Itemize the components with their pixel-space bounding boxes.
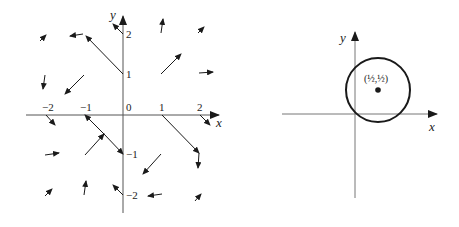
- y-axis-label: y: [338, 30, 346, 45]
- y-tick-label: −2: [126, 189, 138, 201]
- x-tick-label: −1: [80, 101, 92, 113]
- vector-arrow: [198, 27, 204, 33]
- vector-field-panel: x y −2 −1 0 1 2 2 1 −1 −2: [26, 7, 222, 213]
- x-axis-label: x: [215, 115, 222, 130]
- vector-arrow: [85, 134, 104, 155]
- vector-arrow: [161, 19, 163, 33]
- circle-diagram-panel: x y (½,½): [282, 30, 437, 198]
- x-tick-label: −2: [42, 101, 54, 113]
- vector-arrow: [195, 194, 201, 201]
- vector-arrow: [86, 36, 123, 74]
- vector-arrow: [113, 24, 123, 34]
- vector-arrow: [113, 185, 123, 195]
- vector-arrow: [45, 189, 52, 196]
- y-axis-label: y: [108, 7, 116, 22]
- vector-arrow: [198, 153, 199, 168]
- vector-arrow: [43, 75, 45, 89]
- figure-canvas: x y −2 −1 0 1 2 2 1 −1 −2: [0, 0, 459, 227]
- vector-arrow: [84, 181, 86, 195]
- vector-arrow: [143, 154, 161, 174]
- x-axis-label: x: [428, 119, 435, 134]
- vector-arrow: [148, 194, 162, 196]
- vector-arrow: [162, 115, 199, 153]
- x-tick-label: 1: [159, 101, 165, 113]
- y-tick-label: 1: [126, 68, 132, 80]
- vector-arrow: [161, 54, 181, 74]
- vector-arrow: [46, 115, 55, 125]
- vector-arrow: [199, 72, 213, 73]
- vector-arrow: [104, 134, 123, 154]
- vector-arrow: [45, 153, 59, 155]
- vector-arrow: [65, 75, 84, 94]
- center-label: (½,½): [364, 73, 388, 85]
- x-tick-label: 2: [197, 101, 203, 113]
- vector-arrow: [40, 35, 46, 41]
- y-tick-label: 2: [126, 28, 132, 40]
- vector-arrow: [200, 115, 210, 125]
- center-point: [375, 87, 381, 93]
- y-tick-label: −1: [126, 148, 138, 160]
- vector-arrow: [85, 115, 104, 134]
- vector-arrow: [70, 34, 83, 36]
- x-tick-label: 0: [126, 101, 132, 113]
